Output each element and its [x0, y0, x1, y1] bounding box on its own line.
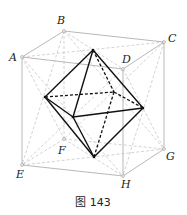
label-A: A: [8, 51, 17, 64]
label-F: F: [57, 144, 66, 157]
label-G: G: [166, 150, 175, 163]
label-E: E: [15, 168, 24, 181]
figure-caption: 图 143: [75, 196, 111, 209]
octahedron-in-cube-diagram: A B C D E F G H 图 143: [0, 0, 187, 215]
label-B: B: [56, 14, 65, 27]
label-C: C: [168, 32, 177, 45]
label-D: D: [121, 53, 131, 66]
label-H: H: [120, 178, 131, 191]
